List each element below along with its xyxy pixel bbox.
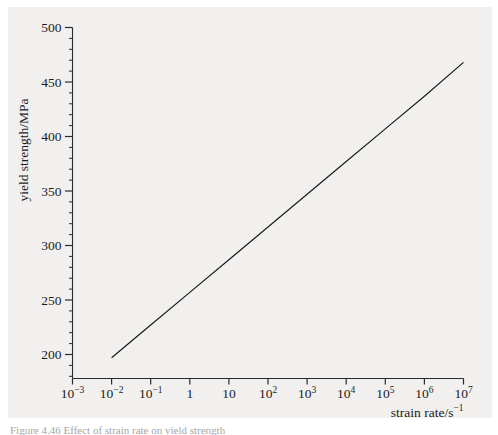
y-axis-tick-label: 250 [41, 293, 62, 308]
figure-container: 20025030035040045050010−310−210−11101021… [0, 0, 498, 435]
x-axis-tick-label: 106 [415, 385, 434, 402]
data-series-group [112, 62, 464, 357]
x-axis-tick-label: 10−3 [61, 385, 85, 402]
x-axis-tick-label: 102 [259, 385, 278, 402]
axes-group [65, 28, 464, 385]
y-axis-tick-label: 450 [41, 75, 62, 90]
y-axis-tick-label: 350 [41, 184, 62, 199]
figure-caption: Figure 4.46 Effect of strain rate on yie… [10, 424, 480, 435]
data-line [112, 62, 464, 357]
y-axis-tick-label: 200 [41, 347, 62, 362]
y-axis-tick-label: 400 [41, 129, 62, 144]
x-axis-tick-label: 10 [222, 386, 236, 401]
x-axis-tick-label: 105 [376, 385, 395, 402]
y-axis-tick-label: 300 [41, 238, 62, 253]
x-axis-title: strain rate/s−1 [391, 403, 464, 420]
x-axis-tick-label: 1 [186, 386, 193, 401]
chart-canvas: 20025030035040045050010−310−210−11101021… [0, 0, 498, 435]
x-axis-tick-label: 107 [454, 385, 473, 402]
x-axis-tick-label: 103 [298, 385, 317, 402]
x-axis-tick-label: 104 [337, 385, 356, 402]
y-axis-tick-label: 500 [41, 20, 62, 35]
axis-labels-group: 20025030035040045050010−310−210−11101021… [16, 20, 473, 419]
x-axis-tick-label: 10−2 [100, 385, 124, 402]
y-axis-title: yield strength/MPa [16, 98, 31, 201]
x-axis-tick-label: 10−1 [139, 385, 163, 402]
